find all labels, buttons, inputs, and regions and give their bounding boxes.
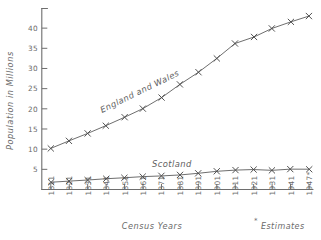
y-axis-tick-label: 5 [33, 165, 38, 174]
x-axis-tick-label: 1931 [268, 175, 277, 195]
y-axis-tick-label: 10 [28, 145, 38, 154]
y-axis-tick-label: 20 [28, 105, 38, 114]
data-point-marker [214, 55, 220, 61]
y-axis-tick-label: 40 [28, 24, 38, 33]
x-axis-tick-label: 1881 [176, 175, 185, 195]
data-point-marker [48, 145, 54, 151]
x-axis-tick-label: 1947* [305, 171, 314, 195]
chart-canvas: 510152025303540 181118211831184118511861… [0, 0, 321, 240]
data-point-marker [306, 13, 312, 19]
data-point-marker [140, 105, 146, 111]
x-axis-tick-label: 1911 [231, 175, 240, 195]
y-axis-tick-label: 15 [28, 125, 38, 134]
x-axis-tick-label: 1901 [213, 175, 222, 195]
x-axis-tick-label: 1891 [194, 175, 203, 195]
data-point-marker [122, 114, 128, 120]
y-axis-tick-label: 35 [28, 44, 38, 53]
x-axis-tick-label: 1811 [47, 175, 56, 195]
data-point-marker [232, 40, 238, 46]
series-label-england-and-wales: England and Wales [98, 68, 181, 115]
population-line-chart: 510152025303540 181118211831184118511861… [0, 0, 321, 240]
y-axis-ticks [42, 28, 48, 169]
x-axis-tick-label: 1941 [287, 175, 296, 195]
x-axis-title: Census Years [122, 221, 183, 231]
footnote-label: Estimates [261, 222, 305, 231]
y-axis-tick-label: 25 [28, 84, 38, 93]
footnote-symbol: * [254, 217, 258, 225]
x-axis-tick-label: 1921 [250, 175, 259, 195]
series-label-scotland: Scotland [152, 159, 192, 169]
data-point-marker [251, 34, 257, 40]
y-axis [42, 9, 48, 190]
series-england-and-wales [48, 13, 312, 152]
data-point-marker [85, 130, 91, 136]
y-axis-tick-labels: 510152025303540 [28, 24, 38, 174]
data-point-marker [66, 138, 72, 144]
data-point-marker [195, 69, 201, 75]
data-point-marker [288, 19, 294, 25]
series-line [51, 16, 309, 148]
data-point-marker [177, 81, 183, 87]
x-axis-tick-label: 1831 [84, 175, 93, 195]
data-point-marker [269, 25, 275, 31]
y-axis-tick-label: 30 [28, 64, 38, 73]
data-point-marker [158, 94, 164, 100]
data-point-marker [103, 123, 109, 129]
y-axis-title: Population in Millions [5, 51, 15, 150]
